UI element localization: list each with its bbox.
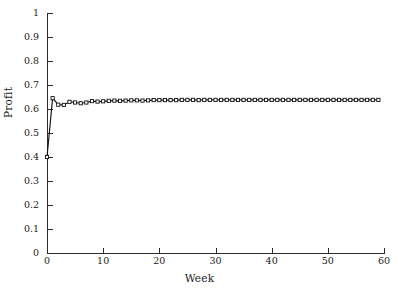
series-marker	[214, 98, 217, 101]
series-marker	[169, 99, 172, 102]
series-marker	[225, 98, 228, 101]
series-marker	[259, 98, 262, 101]
series-marker	[186, 98, 189, 101]
series-marker	[85, 101, 88, 104]
series-marker	[332, 98, 335, 101]
series-marker	[343, 98, 346, 101]
series-marker	[147, 99, 150, 102]
series-marker	[366, 98, 369, 101]
series-marker	[309, 98, 312, 101]
series-marker	[253, 98, 256, 101]
series-marker	[360, 98, 363, 101]
profit-vs-week-chart: 00.10.20.30.40.50.60.70.80.91 0102030405…	[0, 0, 399, 294]
series-line	[47, 98, 378, 157]
series-marker	[315, 98, 318, 101]
series-marker	[242, 98, 245, 101]
series-marker	[130, 99, 133, 102]
series-marker	[326, 98, 329, 101]
series-marker	[158, 99, 161, 102]
series-marker	[152, 99, 155, 102]
series-marker	[62, 103, 65, 106]
series-marker	[68, 100, 71, 103]
series-marker	[281, 98, 284, 101]
series-marker	[371, 98, 374, 101]
series-marker	[141, 99, 144, 102]
series-marker	[51, 97, 54, 100]
series-marker	[57, 103, 60, 106]
series-marker	[304, 98, 307, 101]
series-marker	[220, 98, 223, 101]
series-marker	[102, 100, 105, 103]
series-marker	[107, 99, 110, 102]
series-markers	[45, 97, 380, 159]
series-marker	[96, 100, 99, 103]
series-marker	[264, 98, 267, 101]
series-marker	[45, 155, 48, 158]
series-marker	[337, 98, 340, 101]
series-marker	[276, 98, 279, 101]
series-marker	[236, 98, 239, 101]
series-marker	[73, 101, 76, 104]
series-marker	[208, 98, 211, 101]
series-marker	[231, 98, 234, 101]
series-marker	[135, 99, 138, 102]
series-marker	[354, 98, 357, 101]
series-marker	[175, 99, 178, 102]
series-marker	[248, 98, 251, 101]
series-marker	[163, 99, 166, 102]
profit-series	[0, 0, 399, 294]
series-marker	[191, 98, 194, 101]
series-marker	[90, 99, 93, 102]
series-marker	[180, 98, 183, 101]
series-marker	[203, 98, 206, 101]
series-marker	[113, 99, 116, 102]
series-marker	[349, 98, 352, 101]
series-marker	[118, 99, 121, 102]
series-marker	[298, 98, 301, 101]
series-marker	[79, 102, 82, 105]
series-marker	[197, 99, 200, 102]
series-marker	[293, 98, 296, 101]
series-marker	[377, 98, 380, 101]
series-marker	[287, 98, 290, 101]
series-marker	[270, 98, 273, 101]
series-marker	[124, 99, 127, 102]
series-marker	[321, 98, 324, 101]
